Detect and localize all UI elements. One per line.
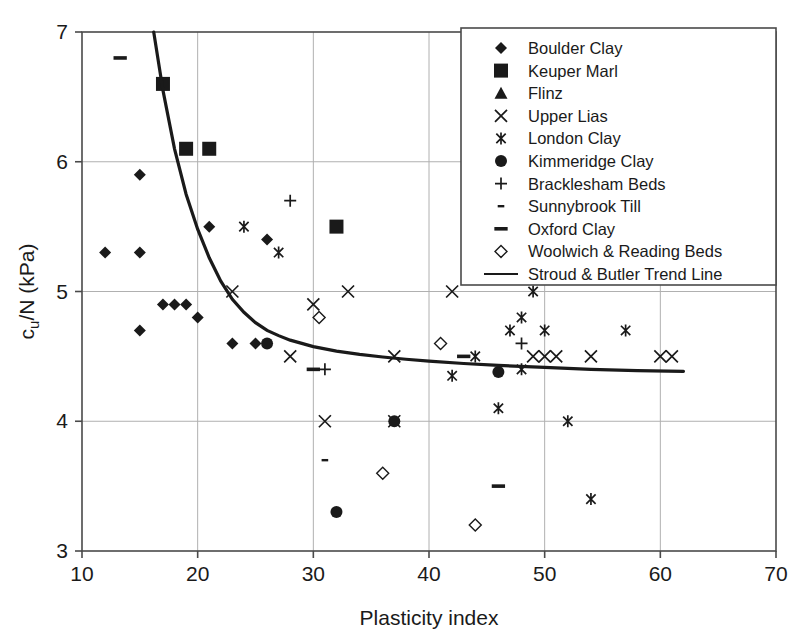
x-tick-label: 50 bbox=[533, 562, 556, 585]
data-point bbox=[261, 234, 273, 246]
x-tick-labels: 10203040506070 bbox=[70, 562, 787, 585]
x-tick-label: 40 bbox=[417, 562, 440, 585]
data-point bbox=[435, 337, 447, 349]
y-tick-label: 6 bbox=[56, 150, 68, 173]
data-point bbox=[517, 311, 526, 323]
y-axis-title: cu/N (kPa) bbox=[15, 244, 42, 340]
data-point bbox=[494, 402, 503, 414]
data-point bbox=[585, 350, 597, 362]
legend-item-label: London Clay bbox=[528, 129, 621, 147]
x-tick-label: 20 bbox=[186, 562, 209, 585]
chart-figure: 10203040506070 34567 Plasticity index cu… bbox=[0, 0, 811, 641]
data-point bbox=[203, 221, 215, 233]
legend-marker-dash-wide-icon bbox=[494, 227, 507, 231]
y-tick-label: 5 bbox=[56, 280, 68, 303]
legend-item-label: Flinz bbox=[528, 84, 563, 102]
data-point bbox=[284, 195, 296, 207]
x-tick-label: 10 bbox=[70, 562, 93, 585]
data-point bbox=[226, 337, 238, 349]
y-tick-labels: 34567 bbox=[56, 20, 68, 562]
data-point bbox=[586, 493, 595, 505]
data-point bbox=[274, 247, 283, 259]
data-point bbox=[239, 221, 248, 233]
data-point bbox=[179, 142, 193, 156]
legend-item-label: Sunnybrook Till bbox=[528, 197, 641, 215]
legend-item-label: Upper Lias bbox=[528, 107, 608, 125]
data-point bbox=[319, 363, 331, 375]
data-point bbox=[250, 337, 262, 349]
data-point bbox=[471, 350, 480, 362]
legend-item-label: Keuper Marl bbox=[528, 62, 618, 80]
data-point bbox=[307, 368, 320, 372]
x-tick-label: 30 bbox=[302, 562, 325, 585]
data-point bbox=[180, 298, 192, 310]
data-point bbox=[457, 355, 470, 359]
data-point bbox=[134, 169, 146, 181]
data-point bbox=[322, 459, 329, 461]
data-point bbox=[505, 324, 514, 336]
legend-item-label: Woolwich & Reading Beds bbox=[528, 242, 722, 260]
legend-item-label: Oxford Clay bbox=[528, 220, 616, 238]
data-point bbox=[469, 519, 481, 531]
x-tick-label: 70 bbox=[764, 562, 787, 585]
legend-marker-circle-icon bbox=[495, 155, 507, 167]
data-point bbox=[169, 298, 181, 310]
x-tick-label: 60 bbox=[649, 562, 672, 585]
data-point bbox=[134, 247, 146, 259]
y-tick-label: 7 bbox=[56, 20, 68, 43]
data-point bbox=[157, 298, 169, 310]
data-point bbox=[540, 324, 549, 336]
data-point bbox=[492, 484, 505, 488]
data-point bbox=[527, 350, 539, 362]
x-axis-title: Plasticity index bbox=[360, 606, 499, 629]
data-point bbox=[134, 324, 146, 336]
y-tick-label: 3 bbox=[56, 539, 68, 562]
data-point bbox=[388, 415, 400, 427]
legend-item-label: Boulder Clay bbox=[528, 39, 623, 57]
data-point bbox=[621, 324, 630, 336]
data-point bbox=[284, 350, 296, 362]
legend-marker-dash-small-icon bbox=[498, 205, 505, 207]
legend-marker-square-icon bbox=[494, 64, 508, 78]
data-point bbox=[330, 506, 342, 518]
legend-item-label: Kimmeridge Clay bbox=[528, 152, 654, 170]
scatter-plot: 10203040506070 34567 Plasticity index cu… bbox=[0, 0, 811, 641]
data-point bbox=[202, 142, 216, 156]
data-point bbox=[666, 350, 678, 362]
y-tick-label: 4 bbox=[56, 409, 68, 432]
data-point bbox=[313, 311, 325, 323]
data-point bbox=[329, 220, 343, 234]
legend-box: Boulder ClayKeuper MarlFlinzUpper LiasLo… bbox=[461, 28, 776, 285]
data-point bbox=[99, 247, 111, 259]
data-point bbox=[261, 337, 273, 349]
data-point bbox=[516, 337, 528, 349]
data-point bbox=[377, 467, 389, 479]
data-point bbox=[447, 370, 456, 382]
legend-item-label: Bracklesham Beds bbox=[528, 175, 666, 193]
legend-item-label: Stroud & Butler Trend Line bbox=[528, 265, 722, 283]
data-point bbox=[114, 56, 127, 60]
data-point bbox=[492, 366, 504, 378]
legend-item[interactable]: Woolwich & Reading Beds bbox=[495, 242, 722, 260]
data-point bbox=[192, 311, 204, 323]
x-axis-label-text: Plasticity index bbox=[360, 606, 499, 629]
data-point bbox=[550, 350, 562, 362]
y-axis-label-text: cu/N (kPa) bbox=[15, 244, 42, 340]
